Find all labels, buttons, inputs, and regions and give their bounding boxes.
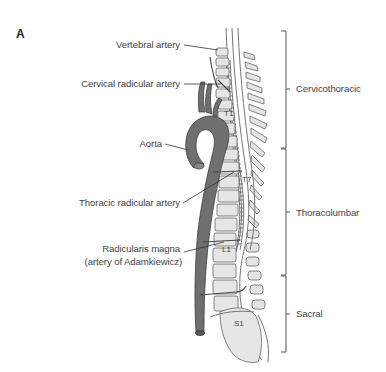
label-vertebral-artery: Vertebral artery <box>116 39 180 50</box>
label-radicularis-magna: Radicularis magna <box>102 243 180 254</box>
marker-t1: T1 <box>224 109 234 118</box>
region-label-sacral: Sacral <box>296 308 323 319</box>
label-cervical-radicular-artery: Cervical radicular artery <box>81 78 180 89</box>
bracket-cervicothoracic <box>281 31 286 148</box>
bracket-sacral <box>281 276 286 352</box>
marker-t7: T7 <box>242 175 252 184</box>
label-thoracic-radicular-artery: Thoracic radicular artery <box>79 197 180 208</box>
marker-s1: S1 <box>234 319 244 328</box>
region-brackets <box>281 31 290 352</box>
label-artery-of-adamkiewicz: (artery of Adamkiewicz) <box>85 256 182 267</box>
region-label-cervicothoracic: Cervicothoracic <box>296 83 361 94</box>
bracket-thoracolumbar <box>281 149 286 275</box>
region-label-thoracolumbar: Thoracolumbar <box>296 207 359 218</box>
label-aorta: Aorta <box>140 138 162 149</box>
spinal-cord-blood-supply-illustration: T1 T7 L1 S1 <box>0 0 386 372</box>
marker-l1: L1 <box>222 245 231 254</box>
